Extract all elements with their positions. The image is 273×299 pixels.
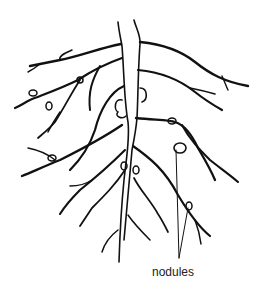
- root-drawing: [0, 0, 273, 299]
- root-nodule-diagram: nodules: [0, 0, 273, 299]
- nodules-label: nodules: [152, 265, 194, 279]
